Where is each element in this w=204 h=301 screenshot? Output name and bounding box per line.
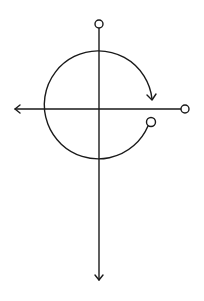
top-node-circle [95,20,103,28]
rotation-arc [44,51,152,159]
arc-start-node-circle [147,118,156,127]
right-node-circle [181,105,189,113]
rotation-diagram [0,0,204,301]
